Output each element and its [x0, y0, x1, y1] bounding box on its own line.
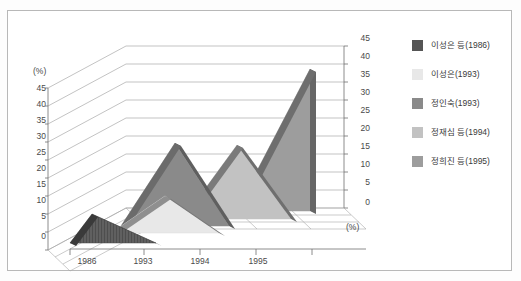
right-axis-ticks — [344, 46, 348, 208]
left-tick-9: 0 — [28, 231, 46, 241]
legend-label: 이성은 등(1986) — [431, 40, 490, 51]
left-tick-1: 40 — [28, 99, 46, 109]
left-tick-6: 15 — [28, 179, 46, 189]
left-tick-5: 20 — [28, 163, 46, 173]
legend-swatch-icon — [412, 69, 423, 80]
legend-label: 정재심 등(1994) — [431, 127, 490, 138]
legend-item-2[interactable]: 정인숙(1993) — [412, 98, 480, 109]
category-label-1986: 1986 — [70, 256, 104, 266]
chart-frame: (%) (%) 45 40 35 30 25 20 15 10 5 0 45 4… — [7, 10, 512, 271]
x-axis-ticks — [70, 249, 312, 255]
category-label-1993: 1993 — [126, 256, 160, 266]
legend-swatch-icon — [412, 40, 423, 51]
left-wall-gridlines — [48, 46, 126, 250]
right-tick-9: 0 — [352, 197, 370, 207]
left-tick-7: 10 — [28, 195, 46, 205]
right-tick-8: 5 — [352, 177, 370, 187]
legend-item-4[interactable]: 정희진 등(1995) — [412, 156, 490, 167]
left-tick-8: 5 — [28, 211, 46, 221]
legend-swatch-icon — [412, 127, 423, 138]
legend-item-1[interactable]: 이성은(1993) — [412, 69, 480, 80]
right-tick-2: 35 — [352, 69, 370, 79]
legend-item-3[interactable]: 정재심 등(1994) — [412, 127, 490, 138]
legend-label: 정인숙(1993) — [431, 98, 480, 109]
category-label-1995: 1995 — [241, 256, 275, 266]
right-tick-4: 25 — [352, 105, 370, 115]
category-label-1994: 1994 — [183, 256, 217, 266]
left-axis-unit: (%) — [33, 66, 46, 76]
right-tick-6: 15 — [352, 141, 370, 151]
chart-3d-scene — [8, 11, 403, 272]
legend-label: 이성은(1993) — [431, 69, 480, 80]
legend-swatch-icon — [412, 98, 423, 109]
right-tick-5: 20 — [352, 123, 370, 133]
chart-screenshot: (%) (%) 45 40 35 30 25 20 15 10 5 0 45 4… — [0, 0, 521, 281]
right-axis-unit: (%) — [346, 222, 359, 232]
right-tick-1: 40 — [352, 51, 370, 61]
legend-item-0[interactable]: 이성은 등(1986) — [412, 40, 490, 51]
right-tick-0: 45 — [352, 33, 370, 43]
chart-legend: 이성은 등(1986) 이성은(1993) 정인숙(1993) 정재심 등(19… — [404, 11, 512, 272]
legend-swatch-icon — [412, 156, 423, 167]
right-tick-3: 30 — [352, 87, 370, 97]
chart-plot-area: (%) (%) 45 40 35 30 25 20 15 10 5 0 45 4… — [8, 11, 403, 272]
left-tick-4: 25 — [28, 147, 46, 157]
left-tick-2: 35 — [28, 115, 46, 125]
left-tick-0: 45 — [28, 83, 46, 93]
right-tick-7: 10 — [352, 159, 370, 169]
legend-label: 정희진 등(1995) — [431, 156, 490, 167]
left-tick-3: 30 — [28, 131, 46, 141]
